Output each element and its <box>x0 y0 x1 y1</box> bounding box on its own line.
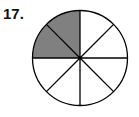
center-point <box>78 56 82 60</box>
fraction-circle <box>0 0 139 117</box>
